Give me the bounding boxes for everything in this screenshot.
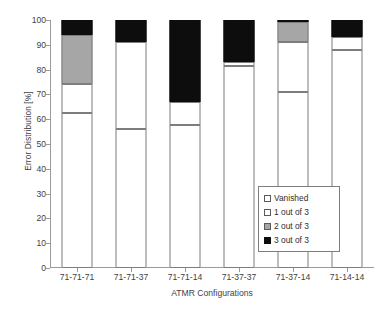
stacked-bar[interactable] bbox=[62, 20, 93, 268]
x-axis-tick-label: 71-14-14 bbox=[330, 272, 364, 282]
legend-swatch-icon bbox=[264, 237, 271, 244]
stacked-bar[interactable] bbox=[224, 20, 255, 268]
y-axis-tick-mark bbox=[46, 243, 50, 244]
bar-segment-vanished[interactable] bbox=[62, 113, 93, 268]
y-axis-tick-label: 40 bbox=[20, 164, 46, 174]
y-axis-tick-label: 60 bbox=[20, 114, 46, 124]
bar-segment-one[interactable] bbox=[170, 102, 201, 126]
x-axis-tick-labels: 71-71-7171-71-3771-71-1471-37-3771-37-14… bbox=[50, 272, 374, 286]
y-axis-tick-mark bbox=[46, 45, 50, 46]
y-axis-tick-mark bbox=[46, 268, 50, 269]
bar-segment-one[interactable] bbox=[278, 42, 309, 92]
stacked-bar[interactable] bbox=[170, 20, 201, 268]
bar-segment-two[interactable] bbox=[278, 22, 309, 42]
bar-group bbox=[158, 20, 212, 268]
legend-item[interactable]: 1 out of 3 bbox=[264, 205, 334, 219]
bar-group bbox=[50, 20, 104, 268]
legend-label: 1 out of 3 bbox=[274, 207, 309, 217]
x-axis-tick-label: 71-71-37 bbox=[114, 272, 148, 282]
y-axis-tick-label: 90 bbox=[20, 40, 46, 50]
legend-label: 3 out of 3 bbox=[274, 235, 309, 245]
y-axis-tick-label: 30 bbox=[20, 189, 46, 199]
chart-legend: Vanished1 out of 32 out of 33 out of 3 bbox=[258, 186, 340, 252]
bar-segment-three[interactable] bbox=[62, 20, 93, 35]
y-axis-tick-mark bbox=[46, 218, 50, 219]
legend-label: Vanished bbox=[274, 193, 308, 203]
bar-segment-vanished[interactable] bbox=[116, 129, 147, 268]
bar-segment-one[interactable] bbox=[224, 62, 255, 66]
legend-swatch-icon bbox=[264, 223, 271, 230]
y-axis-tick-mark bbox=[46, 144, 50, 145]
y-axis-tick-label: 20 bbox=[20, 213, 46, 223]
y-axis-tick-label: 100 bbox=[20, 15, 46, 25]
x-axis-tick-label: 71-71-14 bbox=[168, 272, 202, 282]
bar-segment-one[interactable] bbox=[116, 42, 147, 129]
y-axis-tick-label: 0 bbox=[20, 263, 46, 273]
error-distribution-chart: Error Distribution [%] 01020304050607080… bbox=[0, 0, 381, 316]
bar-segment-two[interactable] bbox=[62, 35, 93, 85]
bar-segment-three[interactable] bbox=[170, 20, 201, 102]
x-axis-tick-label: 71-37-14 bbox=[276, 272, 310, 282]
bar-segment-one[interactable] bbox=[332, 37, 363, 49]
y-axis-tick-mark bbox=[46, 194, 50, 195]
legend-item[interactable]: 2 out of 3 bbox=[264, 219, 334, 233]
y-axis-tick-label: 80 bbox=[20, 65, 46, 75]
legend-swatch-icon bbox=[264, 209, 271, 216]
bar-segment-vanished[interactable] bbox=[170, 125, 201, 268]
bar-segment-three[interactable] bbox=[278, 20, 309, 22]
bar-segment-three[interactable] bbox=[116, 20, 147, 42]
y-axis-tick-mark bbox=[46, 119, 50, 120]
bar-segment-vanished[interactable] bbox=[224, 66, 255, 268]
legend-swatch-icon bbox=[264, 195, 271, 202]
y-axis-tick-label: 50 bbox=[20, 139, 46, 149]
legend-label: 2 out of 3 bbox=[274, 221, 309, 231]
legend-item[interactable]: 3 out of 3 bbox=[264, 233, 334, 247]
y-axis-tick-mark bbox=[46, 70, 50, 71]
y-axis-tick-label: 10 bbox=[20, 238, 46, 248]
bar-segment-one[interactable] bbox=[62, 84, 93, 113]
y-axis-tick-label: 70 bbox=[20, 89, 46, 99]
bar-segment-three[interactable] bbox=[224, 20, 255, 62]
legend-item[interactable]: Vanished bbox=[264, 191, 334, 205]
stacked-bar[interactable] bbox=[116, 20, 147, 268]
y-axis-tick-labels: 0102030405060708090100 bbox=[20, 20, 46, 268]
x-axis-title: ATMR Configurations bbox=[50, 288, 374, 298]
bar-group bbox=[104, 20, 158, 268]
y-axis-tick-mark bbox=[46, 169, 50, 170]
bar-segment-three[interactable] bbox=[332, 20, 363, 37]
x-axis-tick-label: 71-71-71 bbox=[60, 272, 94, 282]
x-axis-tick-label: 71-37-37 bbox=[222, 272, 256, 282]
y-axis-tick-mark bbox=[46, 20, 50, 21]
y-axis-tick-mark bbox=[46, 94, 50, 95]
